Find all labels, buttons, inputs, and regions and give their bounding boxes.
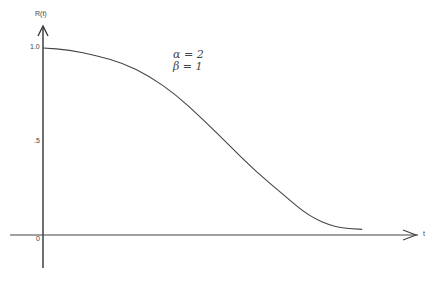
- y-axis-label: R(t): [35, 10, 47, 17]
- reliability-curve: [43, 48, 362, 229]
- beta-text: β = 1: [173, 60, 203, 73]
- origin-label: 0: [36, 235, 40, 242]
- x-axis-label: t: [423, 230, 425, 237]
- y-tick-05: .5: [34, 137, 40, 144]
- beta-annotation: β = 1: [173, 60, 203, 73]
- chart-canvas: [0, 0, 433, 281]
- y-tick-1: 1.0: [30, 43, 40, 50]
